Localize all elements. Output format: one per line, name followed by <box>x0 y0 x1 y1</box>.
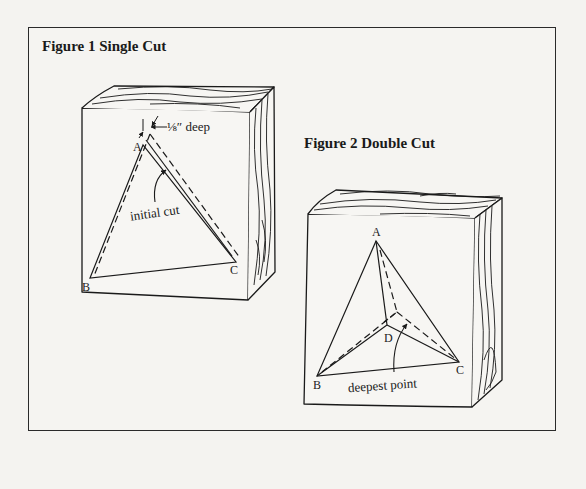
fig2-label-a: A <box>372 225 381 239</box>
fig1-label-b: B <box>82 280 90 294</box>
fig2-label-b: B <box>313 378 321 392</box>
fig1-label-c: C <box>230 263 238 277</box>
fig1-depth-note: ⅛″ deep <box>167 119 210 134</box>
fig1-label-a: A <box>133 140 142 154</box>
fig2-label-c: C <box>456 363 464 377</box>
fig2-label-d: D <box>384 331 393 345</box>
diagram-artwork: A B C ⅛″ deep initial cut <box>0 0 586 489</box>
